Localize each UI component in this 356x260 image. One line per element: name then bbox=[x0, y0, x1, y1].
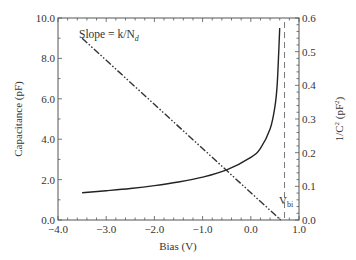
y2-tick-label: 0.1 bbox=[302, 180, 316, 192]
vbi-annotation: Vbi bbox=[279, 194, 294, 209]
plot-frame bbox=[58, 18, 299, 220]
slope-annotation: Slope = k/Nd bbox=[79, 28, 140, 43]
y2-tick-label: 0.4 bbox=[302, 79, 316, 91]
y2-tick-label: 0.2 bbox=[302, 147, 316, 159]
x-tick-label: 0.0 bbox=[244, 223, 258, 235]
y-axis-label: Capacitance (pF) bbox=[12, 81, 25, 157]
y-tick-label: 2.0 bbox=[41, 174, 55, 186]
y2-tick-label: 0.0 bbox=[302, 214, 316, 226]
y2-tick-label: 0.5 bbox=[302, 46, 316, 58]
x-axis-label: Bias (V) bbox=[159, 240, 197, 253]
x-tick-label: −3.0 bbox=[96, 223, 116, 235]
x-tick-label: −2.0 bbox=[144, 223, 164, 235]
y-tick-label: 6.0 bbox=[41, 93, 55, 105]
y-tick-label: 4.0 bbox=[41, 133, 55, 145]
capacitance-curve bbox=[82, 28, 280, 193]
y-tick-label: 10.0 bbox=[36, 12, 56, 24]
y2-tick-labels: 0.00.10.20.30.40.50.6 bbox=[302, 12, 316, 226]
capacitance-bias-chart: −4.0−3.0−2.0−1.00.01.0 0.02.04.06.08.010… bbox=[0, 0, 356, 260]
inverse-square-line bbox=[82, 38, 281, 220]
y2-axis-label: 1/C2 (pF2) bbox=[333, 96, 346, 141]
y-tick-label: 8.0 bbox=[41, 52, 55, 64]
y-tick-labels: 0.02.04.06.08.010.0 bbox=[36, 12, 56, 226]
y-tick-label: 0.0 bbox=[41, 214, 55, 226]
x-tick-label: −1.0 bbox=[193, 223, 213, 235]
y2-tick-label: 0.3 bbox=[302, 113, 316, 125]
axis-ticks bbox=[58, 18, 299, 220]
x-tick-labels: −4.0−3.0−2.0−1.00.01.0 bbox=[48, 223, 306, 235]
y2-tick-label: 0.6 bbox=[302, 12, 316, 24]
